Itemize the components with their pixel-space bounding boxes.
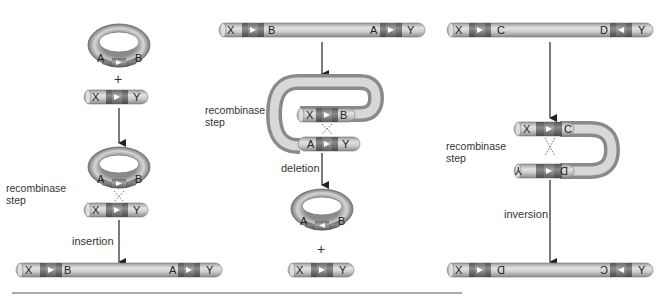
u-shaped-dna-loop: X C Y D [514,122,612,178]
site-label-a: A [370,24,378,36]
crossover-mark [545,138,555,156]
site-label-a: A [97,173,105,185]
label-step: step [446,152,506,164]
site-label-y: Y [638,264,646,276]
site-label-b: B [268,24,275,36]
site-label-x: X [92,91,100,103]
circular-dna-ab: A B [88,24,150,68]
site-label-y: Y [407,24,415,36]
linear-dna-xcdy-start: X C D Y [447,23,653,37]
site-label-x: X [455,24,463,36]
site-label-x: X [523,123,531,135]
step-label-deletion: recombinase step [205,104,265,128]
site-label-y-flipped: Y [514,165,522,177]
folded-dna-loop: X B A Y [274,82,376,151]
site-label-b: B [135,173,142,185]
step-label-insertion: recombinase step [6,182,66,206]
linear-dna-xbay-result: X B A Y [16,263,222,277]
site-label-d-inverted: D [497,264,505,276]
linear-dna-xy-aligned: X Y [84,203,148,217]
site-label-y: Y [133,91,141,103]
plus-sign: + [317,241,325,257]
site-label-y: Y [342,138,350,150]
site-label-x: X [227,24,235,36]
label-recombinase: recombinase [446,140,506,152]
linear-dna-xbay-start: X B A Y [219,23,425,37]
site-label-d: D [600,24,608,36]
site-label-d-flipped: D [560,165,568,177]
site-label-b: B [338,215,345,227]
site-label-y: Y [133,204,141,216]
step-label-inversion: recombinase step [446,140,506,164]
site-label-x: X [25,264,33,276]
recombination-diagram: A B + X Y A B [0,0,672,298]
arrow-label-insertion: insertion [72,235,114,247]
site-label-y: Y [638,24,646,36]
label-recombinase: recombinase [6,182,66,194]
circular-dna-ab-aligned: A B [88,147,150,189]
crossover-mark [114,191,124,202]
site-label-c: C [497,24,505,36]
site-label-c: C [564,123,572,135]
site-label-b: B [64,264,71,276]
arrow-label-inversion: inversion [504,208,548,220]
panel-deletion: X B A Y X B A Y deletion [219,23,425,277]
label-step: step [205,116,265,128]
crossover-mark [322,124,332,134]
site-label-b: B [135,52,142,64]
label-recombinase: recombinase [205,104,265,116]
site-label-y: Y [339,264,347,276]
linear-dna-xdcy-result: X D C Y [447,263,653,277]
site-label-a: A [307,138,315,150]
linear-dna-xy-result: X Y [288,263,354,277]
plus-sign: + [114,71,122,87]
site-label-x: X [92,204,100,216]
site-label-y: Y [206,264,214,276]
site-label-a: A [300,215,308,227]
panel-insertion: A B + X Y A B [16,24,222,277]
site-label-a: A [169,264,177,276]
site-label-b: B [340,109,347,121]
circular-dna-ab-result: A B [291,189,353,231]
site-label-a: A [97,52,105,64]
linear-dna-xy: X Y [84,90,148,104]
site-label-x: X [455,264,463,276]
label-step: step [6,194,66,206]
arrow-label-deletion: deletion [281,162,320,174]
site-label-x: X [306,109,314,121]
site-label-x: X [296,264,304,276]
site-label-c-inverted: C [600,264,608,276]
